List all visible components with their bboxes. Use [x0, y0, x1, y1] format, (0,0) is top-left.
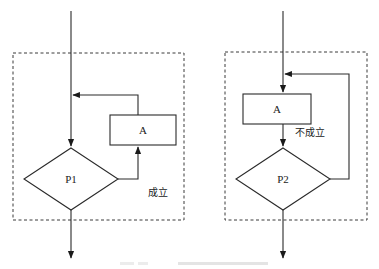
right-condition-label: P2 — [277, 173, 289, 185]
right-branch-label: 不成立 — [295, 126, 325, 138]
flowchart-canvas: A P1 成立 A 不成立 P2 — [0, 0, 379, 269]
figure-caption-remnant — [120, 262, 268, 265]
left-loop-diagram: A P1 成立 — [13, 11, 184, 258]
left-condition-label: P1 — [65, 173, 77, 185]
right-process-label: A — [273, 103, 281, 115]
left-loopback-arrow — [73, 95, 138, 115]
right-loop-diagram: A 不成立 P2 — [225, 11, 367, 258]
left-true-branch-arrow — [118, 147, 138, 179]
left-branch-label: 成立 — [148, 186, 168, 198]
left-process-label: A — [139, 124, 147, 136]
